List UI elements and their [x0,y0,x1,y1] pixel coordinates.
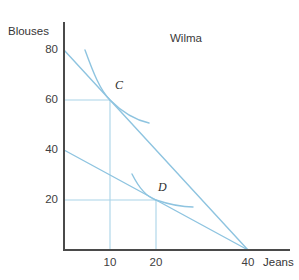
chart-figure: Blouses 80 60 40 20 10 20 40 Jeans Wilma… [0,0,299,280]
point-label-c: C [115,80,123,91]
x-tick-label-10: 10 [95,257,125,268]
x-axis-title: Jeans [263,257,294,268]
y-tick-label-60: 60 [24,94,58,105]
point-label-d: D [158,182,167,193]
x-tick-label-20: 20 [141,257,171,268]
y-tick-label-20: 20 [24,194,58,205]
x-tick-label-40: 40 [233,257,263,268]
chart-title: Wilma [170,33,202,44]
y-axis-title: Blouses [8,26,49,37]
y-tick-label-40: 40 [24,144,58,155]
guide-lines-point-c [64,100,110,250]
chart-plot-area [0,0,299,280]
y-tick-label-80: 80 [24,44,58,55]
